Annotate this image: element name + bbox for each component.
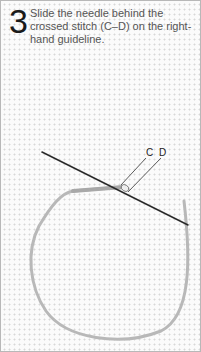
instruction-panel: 3 Slide the needle behind the crossed st… [0, 0, 201, 352]
label-d: D [159, 147, 166, 158]
needle-illustration [1, 1, 201, 352]
needle-icon [42, 152, 188, 225]
thread-icon [31, 187, 188, 339]
label-c: C [146, 147, 153, 158]
